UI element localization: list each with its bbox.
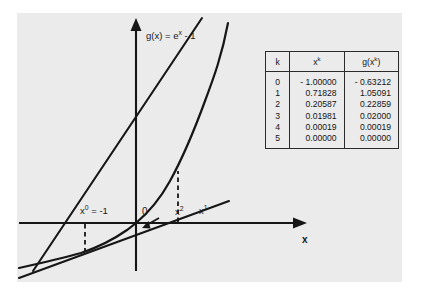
exponential-curve bbox=[19, 23, 228, 268]
cell-k: 4 bbox=[266, 121, 290, 132]
label-x2: x2 bbox=[175, 207, 184, 217]
cell-k: 3 bbox=[266, 110, 290, 121]
figure-panel: g(x) = ex - 1 x0 = -1 0 x2 x1 x k xk g(x… bbox=[17, 13, 402, 282]
tangent-line-x1 bbox=[33, 18, 202, 271]
cell-gxk: 0.22859 bbox=[344, 99, 398, 110]
cell-k: 1 bbox=[266, 88, 290, 99]
header-k: k bbox=[266, 52, 290, 72]
label-x-axis: x bbox=[302, 235, 308, 245]
cell-gxk: 1.05091 bbox=[344, 88, 398, 99]
header-gxk: g(xk) bbox=[344, 52, 398, 72]
cell-xk: 0.00019 bbox=[290, 121, 344, 132]
table-row: 40.000190.00019 bbox=[266, 121, 399, 132]
cell-xk: - 1.00000 bbox=[290, 72, 344, 88]
header-xk: xk bbox=[290, 52, 344, 72]
cell-xk: 0.71828 bbox=[290, 88, 344, 99]
table-row: 50.000000.00000 bbox=[266, 132, 399, 148]
cell-xk: 0.01981 bbox=[290, 110, 344, 121]
iteration-table: k xk g(xk) 0- 1.00000- 0.6321210.718281.… bbox=[265, 51, 399, 149]
table-row: 10.718281.05091 bbox=[266, 88, 399, 99]
curve-equation-label: g(x) = ex - 1 bbox=[146, 31, 196, 41]
cell-k: 5 bbox=[266, 132, 290, 148]
cell-k: 2 bbox=[266, 99, 290, 110]
table-row: 30.019810.02000 bbox=[266, 110, 399, 121]
label-origin: 0 bbox=[142, 207, 148, 217]
table-row: 20.205870.22859 bbox=[266, 99, 399, 110]
cell-gxk: 0.02000 bbox=[344, 110, 398, 121]
cell-xk: 0.00000 bbox=[290, 132, 344, 148]
tangent-line-x0 bbox=[19, 201, 229, 278]
table-row: 0- 1.00000- 0.63212 bbox=[266, 72, 399, 88]
label-x1: x1 bbox=[199, 206, 208, 216]
cell-gxk: 0.00000 bbox=[344, 132, 398, 148]
cell-gxk: 0.00019 bbox=[344, 121, 398, 132]
cell-k: 0 bbox=[266, 72, 290, 88]
cell-xk: 0.20587 bbox=[290, 99, 344, 110]
table-header-row: k xk g(xk) bbox=[266, 52, 399, 72]
cell-gxk: - 0.63212 bbox=[344, 72, 398, 88]
table-body: 0- 1.00000- 0.6321210.718281.0509120.205… bbox=[266, 72, 399, 149]
label-x0: x0 = -1 bbox=[80, 206, 108, 216]
